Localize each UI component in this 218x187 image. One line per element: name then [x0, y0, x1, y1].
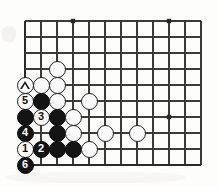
stone-white-triangle[interactable]: [17, 77, 34, 94]
goban[interactable]: 534126: [0, 0, 218, 187]
move-number-label: 1: [22, 143, 28, 154]
stone-move-2[interactable]: 2: [33, 141, 50, 158]
star-point: [167, 115, 171, 119]
star-point: [71, 19, 75, 23]
stone-white[interactable]: [97, 125, 114, 142]
stone-white[interactable]: [65, 109, 82, 126]
stone-move-4[interactable]: 4: [17, 125, 34, 142]
move-number-label: 2: [38, 143, 44, 154]
stone-white[interactable]: [65, 125, 82, 142]
stone-white[interactable]: [49, 77, 66, 94]
stone-white[interactable]: [81, 93, 98, 110]
move-number-label: 3: [38, 111, 44, 122]
stone-move-1[interactable]: 1: [17, 141, 34, 158]
stone-white[interactable]: [49, 93, 66, 110]
stone-move-3[interactable]: 3: [33, 109, 50, 126]
stone-black[interactable]: [33, 93, 50, 110]
stone-black[interactable]: [49, 125, 66, 142]
star-point: [167, 19, 171, 23]
stone-black[interactable]: [65, 141, 82, 158]
move-number-label: 4: [22, 127, 28, 138]
go-board-diagram: 534126: [0, 0, 218, 187]
move-number-label: 6: [22, 159, 28, 170]
stone-black[interactable]: [49, 141, 66, 158]
board-grid: [0, 0, 218, 187]
stone-black[interactable]: [49, 109, 66, 126]
stone-white[interactable]: [81, 141, 98, 158]
stone-white[interactable]: [129, 125, 146, 142]
stone-move-6[interactable]: 6: [17, 157, 34, 174]
move-number-label: 5: [22, 95, 28, 106]
stone-white[interactable]: [33, 77, 50, 94]
stone-white[interactable]: [49, 61, 66, 78]
triangle-marker-icon: [20, 81, 30, 89]
stone-move-5[interactable]: 5: [17, 93, 34, 110]
stone-black[interactable]: [17, 109, 34, 126]
